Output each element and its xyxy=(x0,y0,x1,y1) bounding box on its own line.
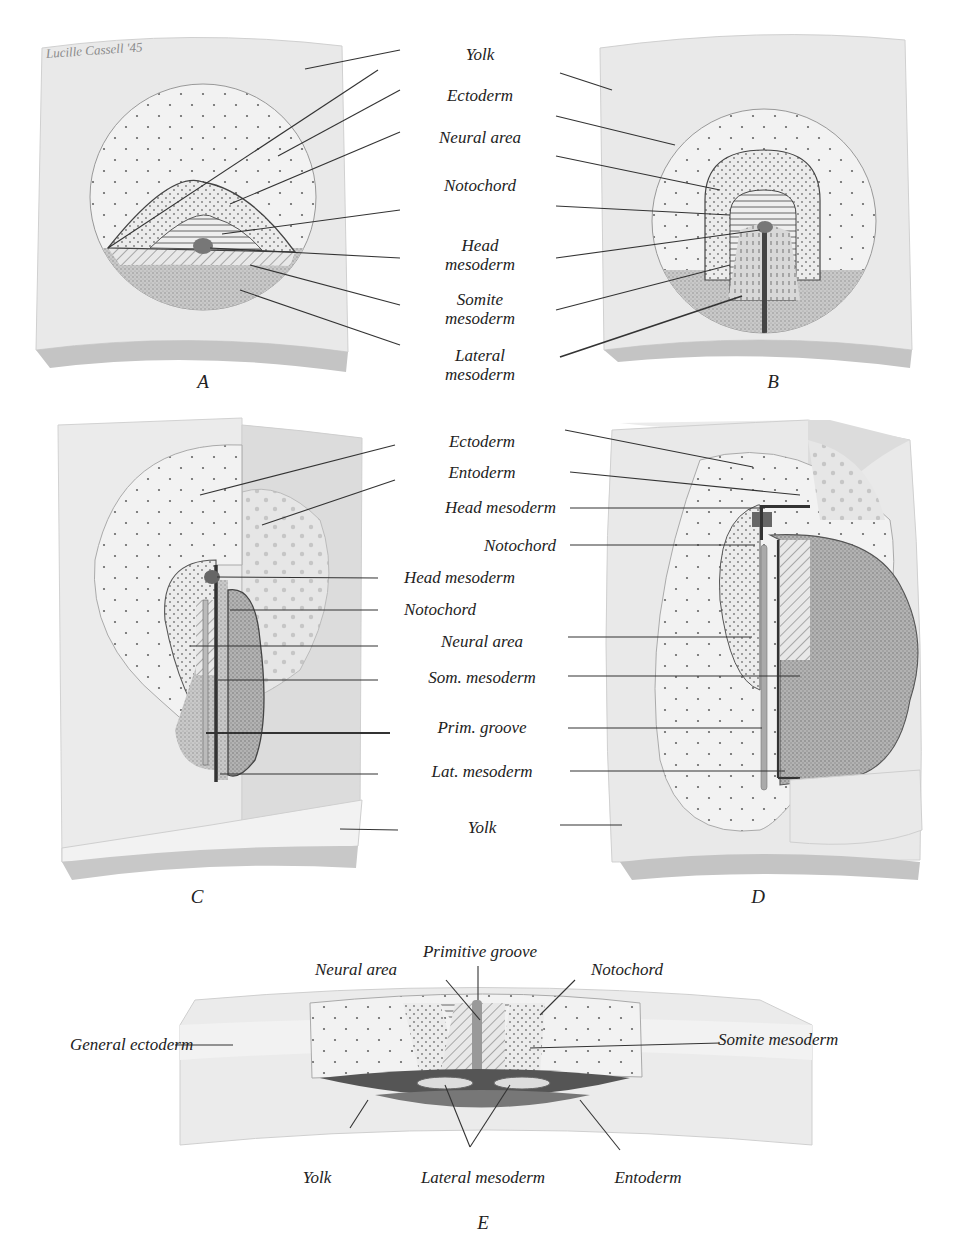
label-neural-area-cd: Neural area xyxy=(441,632,523,651)
label-som-mesoderm-cd: Som. mesoderm xyxy=(428,668,536,687)
label-lat-mesoderm-cd: Lat. mesoderm xyxy=(431,762,532,781)
label-prim-groove-cd: Prim. groove xyxy=(437,718,526,737)
label-line: mesoderm xyxy=(445,309,515,328)
label-primitive-groove-e: Primitive groove xyxy=(423,942,537,961)
label-neural-area-e: Neural area xyxy=(315,960,397,979)
label-notochord-d: Notochord xyxy=(484,536,556,555)
label-notochord: Notochord xyxy=(444,176,516,195)
panel-a-drawing xyxy=(36,37,400,372)
label-line: Somite xyxy=(445,290,515,309)
panel-d-drawing xyxy=(560,420,922,880)
panel-c-drawing xyxy=(58,418,398,880)
embryo-germ-layer-figure: Lucille Cassell '45 Yolk Ectoderm Neural… xyxy=(0,0,963,1241)
label-line: mesoderm xyxy=(445,365,515,384)
label-neural-area: Neural area xyxy=(439,128,521,147)
label-entoderm-cd: Entoderm xyxy=(448,463,515,482)
label-head-mesoderm: Head mesoderm xyxy=(445,236,515,274)
label-head-mesoderm-c: Head mesoderm xyxy=(404,568,515,587)
label-lateral-mesoderm: Lateral mesoderm xyxy=(445,346,515,384)
panel-letter-b: B xyxy=(767,371,779,393)
label-ectoderm-cd: Ectoderm xyxy=(449,432,515,451)
label-yolk-cd: Yolk xyxy=(468,818,497,837)
panel-letter-e: E xyxy=(477,1212,489,1234)
label-somite-mesoderm: Somite mesoderm xyxy=(445,290,515,328)
label-somite-mesoderm-e: Somite mesoderm xyxy=(718,1030,838,1049)
label-yolk-e: Yolk xyxy=(303,1168,332,1187)
label-notochord-c: Notochord xyxy=(404,600,476,619)
label-line: mesoderm xyxy=(445,255,515,274)
label-ectoderm: Ectoderm xyxy=(447,86,513,105)
label-general-ectoderm-e: General ectoderm xyxy=(70,1035,193,1054)
panel-b-drawing xyxy=(556,35,912,368)
label-entoderm-e: Entoderm xyxy=(614,1168,681,1187)
label-line: Lateral xyxy=(445,346,515,365)
label-line: Head xyxy=(445,236,515,255)
panel-letter-a: A xyxy=(197,371,209,393)
label-lateral-mesoderm-e: Lateral mesoderm xyxy=(421,1168,545,1187)
panel-e-drawing xyxy=(175,966,812,1150)
label-head-mesoderm-d: Head mesoderm xyxy=(445,498,556,517)
label-yolk: Yolk xyxy=(466,45,495,64)
panel-letter-d: D xyxy=(751,886,765,908)
panel-letter-c: C xyxy=(191,886,204,908)
label-notochord-e: Notochord xyxy=(591,960,663,979)
